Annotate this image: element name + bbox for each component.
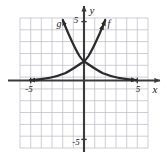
y-tick-label-negative-five: -5 bbox=[72, 137, 80, 147]
y-tick-label-five: 5 bbox=[74, 15, 79, 25]
x-axis-label: x bbox=[152, 83, 158, 95]
x-tick-label-negative-five: -5 bbox=[25, 84, 33, 94]
curve-g-arrow bbox=[63, 20, 65, 25]
exponential-graph-figure: y x -5 5 5 -5 g f bbox=[0, 0, 167, 159]
graph-canvas: y x -5 5 5 -5 g f bbox=[0, 0, 167, 159]
curve-f-arrow bbox=[104, 20, 106, 25]
curve-label-g: g bbox=[57, 18, 62, 29]
x-tick-label-five: 5 bbox=[136, 84, 141, 94]
curve-label-f: f bbox=[108, 18, 112, 29]
y-axis-label: y bbox=[89, 4, 95, 16]
